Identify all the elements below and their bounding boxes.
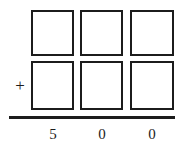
- top-addend-box-ones[interactable]: [130, 10, 174, 56]
- top-addend-box-hundreds[interactable]: [31, 10, 74, 56]
- bottom-addend-box-tens[interactable]: [80, 61, 123, 110]
- plus-sign-icon: +: [11, 74, 29, 98]
- sum-digit-hundreds: 5: [41, 124, 65, 144]
- sum-row: 5 0 0: [0, 124, 185, 146]
- sum-digit-tens: 0: [90, 124, 114, 144]
- sum-rule-line: [9, 116, 175, 119]
- bottom-addend-box-hundreds[interactable]: [31, 61, 74, 110]
- bottom-addend-box-ones[interactable]: [130, 61, 174, 110]
- sum-digit-ones: 0: [140, 124, 164, 144]
- top-addend-box-tens[interactable]: [80, 10, 123, 56]
- addition-worksheet: + 5 0 0: [0, 0, 185, 147]
